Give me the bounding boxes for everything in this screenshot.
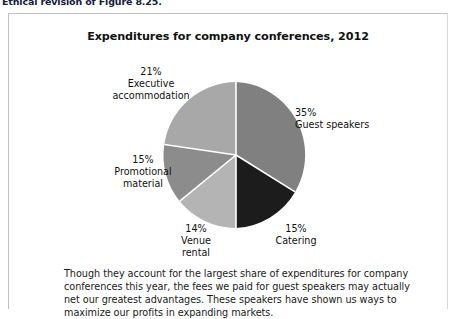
pie-label-executive-accommodation: 21% Executive accommodation: [95, 66, 207, 103]
pie-label-promotional-material-name-line2: material: [91, 178, 195, 190]
pie-label-venue-rental-percent: 14%: [160, 223, 232, 235]
pie-label-venue-rental-name-line2: rental: [160, 247, 232, 259]
pie-label-venue-rental-name-line1: Venue: [160, 235, 232, 247]
pie-label-catering-percent: 15%: [257, 223, 335, 235]
figure-frame: Expenditures for company conferences, 20…: [8, 13, 448, 309]
figure-body-text: Though they account for the largest shar…: [64, 267, 416, 319]
pie-label-guest-speakers-name: Guest speakers: [295, 119, 407, 131]
pie-label-venue-rental: 14% Venue rental: [160, 223, 232, 260]
pie-label-guest-speakers-percent: 35%: [295, 107, 407, 119]
pie-label-catering: 15% Catering: [257, 223, 335, 247]
pie-label-promotional-material-percent: 15%: [91, 154, 195, 166]
pie-label-promotional-material: 15% Promotional material: [91, 154, 195, 191]
pie-label-executive-accommodation-name-line1: Executive: [95, 78, 207, 90]
chart-title: Expenditures for company conferences, 20…: [9, 30, 447, 43]
pie-label-executive-accommodation-name-line2: accommodation: [95, 90, 207, 102]
pie-label-promotional-material-name-line1: Promotional: [91, 166, 195, 178]
figure-caption-heading: Ethical revision of Figure 8.25.: [2, 0, 162, 7]
pie-label-executive-accommodation-percent: 21%: [95, 66, 207, 78]
pie-label-guest-speakers: 35% Guest speakers: [295, 107, 407, 131]
pie-label-catering-name: Catering: [257, 235, 335, 247]
